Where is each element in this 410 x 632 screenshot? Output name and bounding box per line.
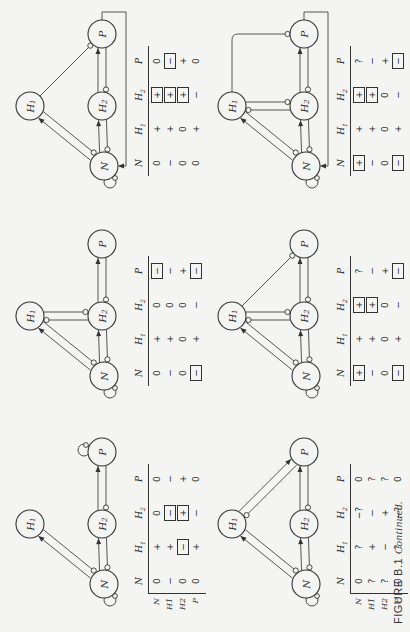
- node-label: N: [99, 578, 110, 589]
- negative-link-icon: [305, 297, 310, 302]
- edge-line: [232, 34, 290, 92]
- column-header: H1: [134, 116, 146, 142]
- cell-value: −: [164, 505, 176, 521]
- cell-value: +: [353, 297, 365, 313]
- cell-value: 0: [165, 302, 175, 308]
- cell-value: −: [190, 365, 202, 381]
- header-rule: [350, 256, 351, 386]
- cell-value: 0: [191, 578, 201, 584]
- network-graph: NH1H2P: [6, 414, 131, 624]
- cell-value: ?: [367, 477, 377, 482]
- node-subscript: 1: [231, 309, 239, 313]
- column-header: H2: [336, 82, 348, 108]
- arrowhead-icon: [96, 258, 101, 264]
- node-label: P: [97, 448, 108, 456]
- cell-value: +: [151, 87, 163, 103]
- table-cell-boxed: −: [190, 258, 202, 284]
- panel-f: NH1H2PN+−0−H1++0+H2++0−P?−+−: [208, 0, 410, 206]
- node-H2: H2: [88, 92, 116, 120]
- cell-value: 0: [380, 92, 390, 98]
- node-P: P: [88, 230, 116, 258]
- edge-line: [245, 465, 297, 517]
- table-cell: +: [392, 326, 404, 352]
- cell-value: +: [380, 267, 390, 275]
- cell-value: 0: [152, 510, 162, 516]
- edge-line: [239, 459, 291, 511]
- cell-value: +: [353, 155, 365, 171]
- table-cell: −: [366, 360, 378, 386]
- node-N: N: [292, 570, 320, 598]
- table-cell: 0: [151, 292, 163, 318]
- column-header: N: [134, 568, 144, 594]
- negative-link-icon: [105, 147, 110, 152]
- cell-value: +: [165, 125, 175, 133]
- node-H1: H1: [218, 92, 246, 120]
- negative-link-icon: [103, 505, 108, 510]
- column-header: N: [134, 360, 144, 386]
- negative-link-icon: [103, 87, 108, 92]
- cell-value: 0: [178, 126, 188, 132]
- edge-line: [240, 328, 292, 370]
- cell-value: −: [191, 509, 201, 517]
- network-graph: NH1H2P: [6, 0, 131, 206]
- node-H1: H1: [16, 302, 44, 330]
- table-cell: 0: [164, 292, 176, 318]
- node-label: P: [299, 240, 310, 248]
- node-H2: H2: [88, 510, 116, 538]
- cell-value: 0: [380, 302, 390, 308]
- node-subscript: 1: [29, 517, 37, 521]
- table-cell: −: [392, 292, 404, 318]
- edge-H1-P: [232, 31, 290, 92]
- cell-value: 0: [380, 336, 390, 342]
- edge-N-H2: [298, 330, 312, 362]
- cell-value: ?: [380, 579, 390, 584]
- figure-page: NH1H2PNH1H2PN0−00H1++−+H20−+−P0−+0 NH1H2…: [0, 0, 410, 632]
- table-cell: ?: [366, 568, 378, 594]
- edge-H1-H2: [246, 309, 290, 322]
- network-graph: NH1H2P: [208, 206, 333, 416]
- cell-value: +: [178, 57, 188, 65]
- cell-value: ?: [354, 545, 364, 550]
- arrowhead-icon: [96, 538, 101, 544]
- arrowhead-icon: [298, 538, 303, 544]
- cell-value: −: [190, 263, 202, 279]
- negative-link-icon: [103, 297, 108, 302]
- edge-H1-H2: [44, 309, 88, 322]
- table-cell-boxed: +: [353, 150, 365, 176]
- cell-value: −: [367, 267, 377, 275]
- node-N: N: [90, 152, 118, 180]
- table-cell: ?: [353, 534, 365, 560]
- cell-value: +: [393, 125, 403, 133]
- cell-value: −: [392, 263, 404, 279]
- edge-line: [240, 536, 292, 578]
- table-cell: +: [379, 258, 391, 284]
- negative-link-icon: [105, 565, 110, 570]
- table-cell-boxed: +: [177, 82, 189, 108]
- node-N: N: [292, 362, 320, 390]
- node-H2: H2: [88, 302, 116, 330]
- negative-link-icon: [84, 443, 89, 448]
- cell-value: +: [191, 543, 201, 551]
- table-cell-boxed: +: [353, 82, 365, 108]
- arrowhead-icon: [298, 466, 303, 472]
- table-cell: 0: [177, 150, 189, 176]
- row-label: H2: [177, 598, 189, 616]
- cell-value: +: [152, 125, 162, 133]
- cell-value: 0: [191, 160, 201, 166]
- cell-value: 0: [152, 58, 162, 64]
- cell-value: 0: [380, 160, 390, 166]
- table-cell: +: [164, 116, 176, 142]
- arrowhead-icon: [298, 120, 303, 126]
- table-cell: +: [177, 258, 189, 284]
- cell-value: −: [380, 543, 390, 551]
- table-cell: 0: [190, 48, 202, 74]
- table-cell: +: [164, 534, 176, 560]
- edge-N-H2: [96, 120, 110, 152]
- cell-value: −: [165, 577, 175, 585]
- table-cell: −: [366, 48, 378, 74]
- node-subscript: 1: [29, 309, 37, 313]
- node-subscript: 1: [231, 99, 239, 103]
- table-cell: −: [164, 568, 176, 594]
- edge-N-H1: [38, 112, 96, 161]
- cell-value: −: [367, 57, 377, 65]
